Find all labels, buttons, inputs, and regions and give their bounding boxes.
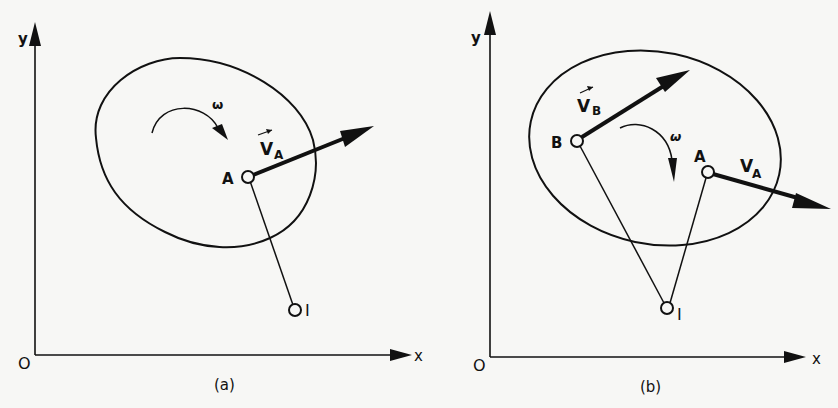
velocity-va-arrowhead-icon	[792, 193, 831, 209]
angular-velocity-arc	[152, 108, 218, 133]
point-i	[289, 304, 301, 316]
y-axis-arrowhead-icon	[484, 11, 496, 35]
point-a-label: A	[222, 170, 234, 188]
svg-text:B: B	[592, 104, 601, 118]
x-axis-label: x	[812, 350, 821, 368]
line-a-to-i	[670, 178, 706, 303]
point-a	[242, 171, 254, 183]
velocity-vb-label: V B	[577, 86, 601, 118]
line-b-to-i	[580, 146, 664, 303]
point-b	[571, 135, 583, 147]
angular-velocity-arrowhead-icon	[668, 158, 677, 182]
omega-label: ω	[212, 97, 223, 112]
omega-label: ω	[670, 129, 681, 144]
velocity-va-label: V A	[740, 156, 762, 181]
point-i	[661, 302, 673, 314]
svg-text:A: A	[752, 167, 762, 181]
svg-text:A: A	[274, 148, 284, 162]
velocity-va-label: V A	[258, 129, 284, 162]
point-a-label: A	[694, 148, 706, 166]
x-axis-arrowhead-icon	[390, 349, 412, 361]
caption-b: (b)	[640, 378, 661, 396]
point-b-label: B	[551, 134, 562, 152]
velocity-va-arrowhead-icon	[340, 126, 374, 147]
point-a	[702, 166, 714, 178]
y-axis-label: y	[471, 29, 481, 47]
y-axis-arrowhead-icon	[29, 22, 41, 46]
angular-velocity-arrowhead-icon	[212, 124, 228, 140]
x-axis-arrowhead-icon	[784, 351, 806, 363]
point-i-label: I	[677, 305, 682, 324]
caption-a: (a)	[214, 376, 235, 394]
panel-a: y x O ω V A A I (a)	[18, 22, 423, 394]
angular-velocity-arc	[620, 125, 672, 160]
panel-b: y x O ω V B V A B A	[471, 11, 831, 396]
rigid-body-velocity-diagram: y x O ω V A A I (a) y	[0, 0, 838, 408]
origin-label: O	[473, 356, 486, 375]
svg-text:V: V	[260, 139, 274, 159]
point-i-label: I	[305, 301, 310, 320]
y-axis-label: y	[18, 30, 28, 48]
svg-text:V: V	[577, 96, 591, 116]
origin-label: O	[18, 354, 31, 373]
x-axis-label: x	[414, 347, 423, 365]
